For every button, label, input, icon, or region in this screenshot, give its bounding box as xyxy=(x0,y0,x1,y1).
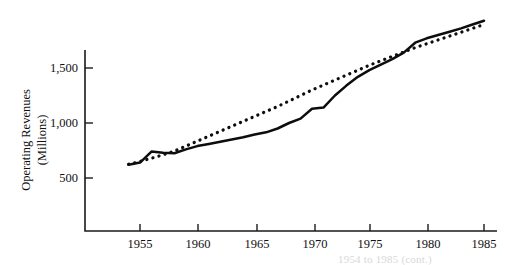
y-axis-label: Operating Revenues (Millions) xyxy=(19,89,49,191)
y-axis-label-line1: Operating Revenues xyxy=(19,89,33,191)
x-tick-label-1985: 1985 xyxy=(472,237,497,251)
x-tick-label-1975: 1975 xyxy=(358,237,383,251)
x-axis-ticks: 1955 1960 1965 1970 1975 1980 1985 xyxy=(128,224,497,251)
x-tick-label-1960: 1960 xyxy=(186,237,211,251)
y-tick-label-500: 500 xyxy=(59,171,78,185)
y-axis-label-line2: (Millions) xyxy=(35,115,49,166)
y-tick-label-1500: 1,500 xyxy=(50,61,78,75)
y-axis-ticks: 1,500 1,000 500 xyxy=(50,61,93,185)
caption-fragment: 1954 to 1985 (cont.) xyxy=(338,253,432,265)
x-tick-label-1970: 1970 xyxy=(303,237,328,251)
x-tick-label-1965: 1965 xyxy=(245,237,270,251)
axis-lines xyxy=(85,50,497,231)
x-tick-label-1955: 1955 xyxy=(128,237,153,251)
series-trend-line xyxy=(129,25,484,165)
y-tick-label-1000: 1,000 xyxy=(50,116,78,130)
data-series-group xyxy=(129,21,484,165)
x-tick-label-1980: 1980 xyxy=(416,237,441,251)
